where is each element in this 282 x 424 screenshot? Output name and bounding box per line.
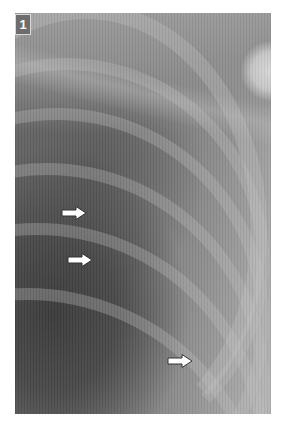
scan-texture bbox=[15, 13, 271, 414]
panel-label: 1 bbox=[15, 14, 31, 35]
arrow-icon bbox=[61, 206, 87, 220]
xray-image: 1 bbox=[15, 13, 271, 414]
arrow-icon bbox=[167, 354, 193, 368]
arrow-icon bbox=[67, 253, 93, 267]
